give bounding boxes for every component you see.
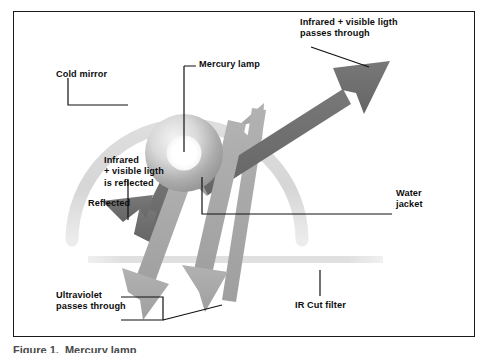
leader-ultraviolet-diagonal xyxy=(163,305,222,320)
label-ir-vis-pass-line2: passes through xyxy=(300,28,398,39)
label-ir-vis-pass-line1: Infrared + visible ligth xyxy=(300,17,398,28)
label-ultraviolet-line1: Ultraviolet xyxy=(56,290,126,301)
label-ultraviolet-passes-through: Ultraviolet passes through xyxy=(56,290,126,313)
label-reflected: Reflected xyxy=(88,198,130,209)
figure-caption: Figure 1. Mercury lamp xyxy=(13,344,475,353)
label-ir-vis-reflected-line1: Infrared xyxy=(104,155,164,166)
label-mercury-lamp: Mercury lamp xyxy=(199,59,260,70)
label-water-jacket: Water jacket xyxy=(396,188,423,211)
label-cold-mirror: Cold mirror xyxy=(56,69,107,80)
label-ir-vis-reflected-line3: is reflected xyxy=(104,178,164,189)
label-infrared-visible-pass-through: Infrared + visible ligth passes through xyxy=(300,17,398,40)
figure-root: Cold mirror Mercury lamp Infrared + visi… xyxy=(0,0,490,353)
leader-ir-vis-pass xyxy=(311,47,369,67)
leader-cold-mirror xyxy=(68,78,128,105)
label-ir-cut-filter: IR Cut filter xyxy=(295,300,346,311)
label-water-jacket-line2: jacket xyxy=(396,199,423,210)
label-ultraviolet-line2: passes through xyxy=(56,301,126,312)
label-water-jacket-line1: Water xyxy=(396,188,423,199)
label-ir-vis-reflected-line2: + visible ligth xyxy=(104,166,164,177)
label-infrared-visible-reflected: Infrared + visible ligth is reflected xyxy=(104,155,164,189)
